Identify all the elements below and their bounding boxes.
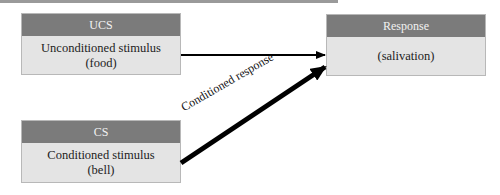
arrows-layer <box>0 0 500 195</box>
cs-to-response-arrow <box>181 67 325 163</box>
